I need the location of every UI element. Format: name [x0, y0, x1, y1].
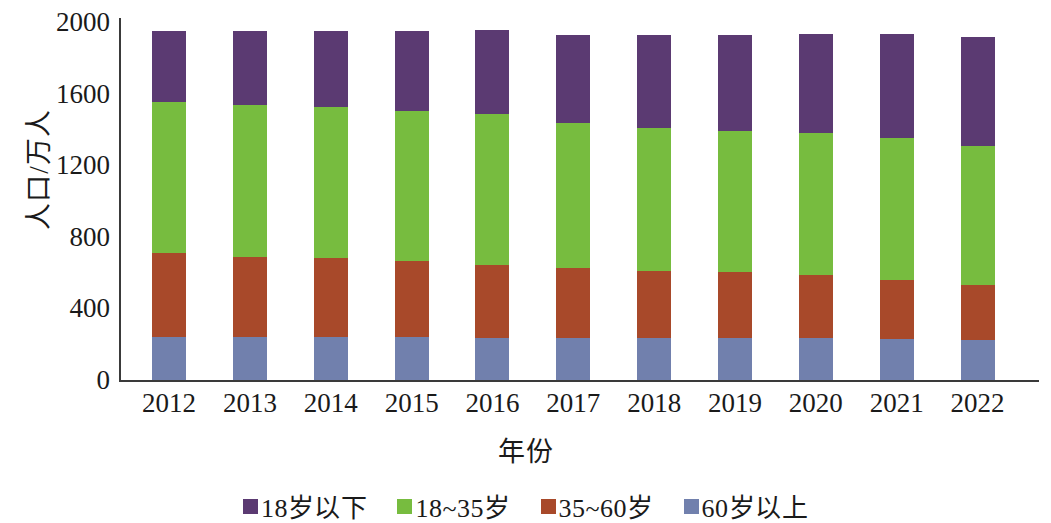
bar-segment[interactable]	[637, 338, 671, 380]
bar-group[interactable]	[556, 22, 590, 380]
bar-segment[interactable]	[799, 275, 833, 338]
bar-group[interactable]	[395, 22, 429, 380]
x-axis-title: 年份	[0, 430, 1051, 469]
y-tick-label: 400	[70, 293, 111, 324]
y-tick-label: 1600	[56, 78, 110, 109]
bar-segment[interactable]	[961, 37, 995, 146]
legend-label: 35~60岁	[559, 487, 654, 523]
bar-segment[interactable]	[880, 339, 914, 380]
x-tick-label: 2013	[205, 388, 295, 419]
bar-segment[interactable]	[556, 35, 590, 123]
y-tick-label: 1200	[56, 150, 110, 181]
bar-segment[interactable]	[718, 35, 752, 131]
bar-segment[interactable]	[395, 111, 429, 261]
legend-label: 18岁以下	[261, 487, 368, 523]
legend-item[interactable]: 35~60岁	[541, 487, 654, 523]
bar-segment[interactable]	[718, 272, 752, 338]
bar-segment[interactable]	[475, 265, 509, 338]
bar-segment[interactable]	[637, 271, 671, 338]
bar-segment[interactable]	[152, 102, 186, 253]
bar-group[interactable]	[718, 22, 752, 380]
legend-swatch-icon	[684, 499, 699, 514]
bar-segment[interactable]	[314, 337, 348, 380]
bar-segment[interactable]	[152, 337, 186, 380]
bar-segment[interactable]	[799, 338, 833, 380]
bar-segment[interactable]	[395, 261, 429, 337]
y-tick-label: 0	[97, 365, 111, 396]
x-tick-label: 2018	[609, 388, 699, 419]
bar-segment[interactable]	[799, 34, 833, 133]
bar-group[interactable]	[961, 22, 995, 380]
bar-segment[interactable]	[880, 138, 914, 279]
bar-group[interactable]	[799, 22, 833, 380]
bar-group[interactable]	[637, 22, 671, 380]
bar-segment[interactable]	[880, 280, 914, 339]
x-tick-label: 2014	[286, 388, 376, 419]
x-tick-label: 2016	[447, 388, 537, 419]
bar-segment[interactable]	[961, 340, 995, 380]
legend-swatch-icon	[541, 499, 556, 514]
bar-segment[interactable]	[314, 107, 348, 258]
bars-layer	[119, 22, 1039, 380]
legend-swatch-icon	[397, 499, 412, 514]
bar-group[interactable]	[314, 22, 348, 380]
x-tick-label: 2021	[852, 388, 942, 419]
bar-group[interactable]	[233, 22, 267, 380]
bar-segment[interactable]	[475, 30, 509, 114]
bar-segment[interactable]	[233, 105, 267, 256]
y-tick-label: 2000	[56, 7, 110, 38]
bar-segment[interactable]	[556, 123, 590, 268]
chart-legend: 18岁以下18~35岁35~60岁60岁以上	[0, 487, 1051, 523]
legend-swatch-icon	[243, 499, 258, 514]
bar-group[interactable]	[152, 22, 186, 380]
bar-segment[interactable]	[799, 133, 833, 275]
bar-segment[interactable]	[556, 338, 590, 380]
plot-area	[119, 22, 1039, 380]
bar-segment[interactable]	[718, 338, 752, 380]
bar-segment[interactable]	[233, 257, 267, 338]
legend-label: 18~35岁	[415, 487, 510, 523]
x-tick-label: 2015	[367, 388, 457, 419]
bar-segment[interactable]	[395, 337, 429, 380]
x-tick-label: 2012	[124, 388, 214, 419]
bar-segment[interactable]	[475, 114, 509, 264]
bar-segment[interactable]	[637, 35, 671, 127]
y-axis-tick-labels: 0400800120016002000	[20, 22, 110, 380]
x-tick-label: 2017	[528, 388, 618, 419]
bar-segment[interactable]	[637, 128, 671, 271]
bar-segment[interactable]	[152, 253, 186, 337]
bar-group[interactable]	[880, 22, 914, 380]
x-tick-label: 2020	[771, 388, 861, 419]
bar-segment[interactable]	[475, 338, 509, 380]
y-tick-label: 800	[70, 221, 111, 252]
bar-segment[interactable]	[961, 285, 995, 340]
bar-segment[interactable]	[961, 146, 995, 285]
x-tick-label: 2022	[933, 388, 1023, 419]
bar-segment[interactable]	[395, 31, 429, 111]
legend-item[interactable]: 18~35岁	[397, 487, 510, 523]
bar-segment[interactable]	[314, 258, 348, 337]
bar-segment[interactable]	[314, 31, 348, 107]
bar-segment[interactable]	[233, 337, 267, 380]
x-axis-tick-labels: 2012201320142015201620172018201920202021…	[119, 388, 1039, 424]
bar-segment[interactable]	[556, 268, 590, 338]
legend-label: 60岁以上	[702, 487, 809, 523]
stacked-bar-chart: 人口/万人 0400800120016002000 20122013201420…	[0, 0, 1051, 523]
bar-group[interactable]	[475, 22, 509, 380]
bar-segment[interactable]	[152, 31, 186, 102]
bar-segment[interactable]	[718, 131, 752, 272]
x-axis-line	[119, 380, 1039, 382]
legend-item[interactable]: 60岁以上	[684, 487, 809, 523]
bar-segment[interactable]	[880, 34, 914, 139]
x-tick-label: 2019	[690, 388, 780, 419]
legend-item[interactable]: 18岁以下	[243, 487, 368, 523]
bar-segment[interactable]	[233, 31, 267, 105]
